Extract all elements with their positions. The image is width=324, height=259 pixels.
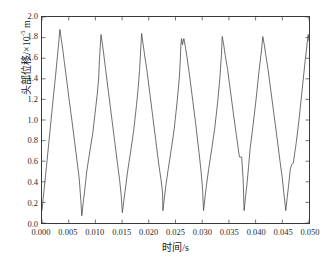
- x-tick-label: 0.030: [193, 227, 212, 237]
- x-tick-label: 0.000: [31, 227, 50, 237]
- x-tick-label: 0.020: [139, 227, 158, 237]
- x-axis-label: 时间/s: [41, 239, 310, 254]
- x-tick-label: 0.035: [220, 227, 239, 237]
- y-axis-label-suffix: m: [21, 20, 32, 30]
- x-tick-label: 0.025: [166, 227, 185, 237]
- y-tick-label: 0.6: [27, 157, 38, 166]
- y-tick-label: 0.2: [27, 199, 38, 208]
- y-axis-label-prefix: 头部位移/×10: [21, 36, 32, 94]
- y-tick-label: 0.4: [27, 178, 38, 187]
- x-tick-label: 0.005: [58, 227, 77, 237]
- data-series-line: [42, 29, 309, 215]
- x-tick-label: 0.040: [247, 227, 266, 237]
- x-tick-label: 0.050: [300, 227, 319, 237]
- y-axis-label-exponent: -5: [19, 31, 27, 37]
- y-axis-label: 头部位移/×10-5 m: [18, 0, 33, 138]
- plot-svg: [42, 17, 309, 223]
- x-tick-label: 0.015: [112, 227, 131, 237]
- plot-area: [41, 16, 310, 224]
- x-tick-label: 0.010: [85, 227, 104, 237]
- x-tick-label: 0.045: [274, 227, 293, 237]
- y-tick-label: 0.8: [27, 136, 38, 145]
- chart-figure: 0.00.20.40.60.81.01.21.41.61.82.0 0.0000…: [0, 0, 324, 259]
